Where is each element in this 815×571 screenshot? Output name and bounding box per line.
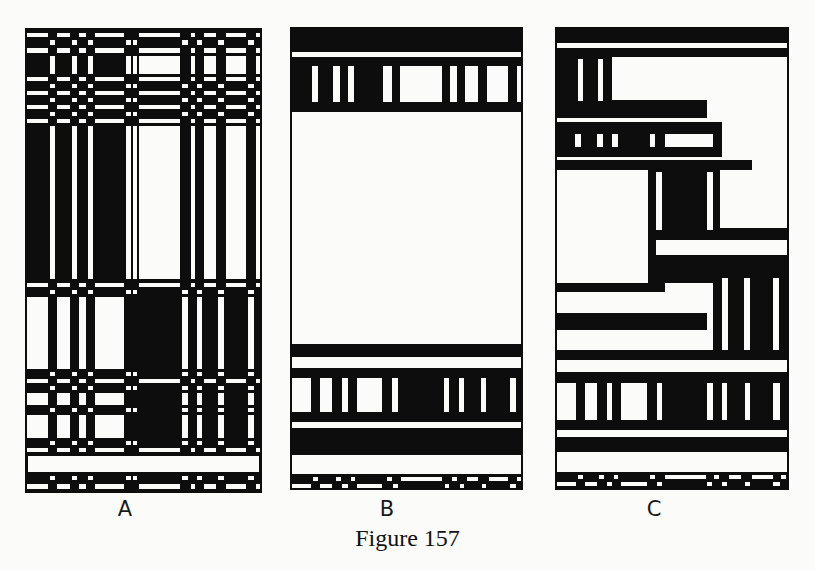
weave-pattern-b (290, 27, 523, 490)
pattern-panel-c (555, 27, 789, 490)
weave-pattern-a (25, 28, 262, 493)
panel-label-b: B (367, 497, 407, 521)
pattern-panel-a (25, 28, 262, 493)
panel-label-a: A (105, 497, 145, 521)
weave-pattern-c (555, 27, 789, 490)
panel-label-c: C (634, 497, 674, 521)
pattern-panel-b (290, 27, 523, 490)
figure-caption: Figure 157 (0, 525, 815, 552)
